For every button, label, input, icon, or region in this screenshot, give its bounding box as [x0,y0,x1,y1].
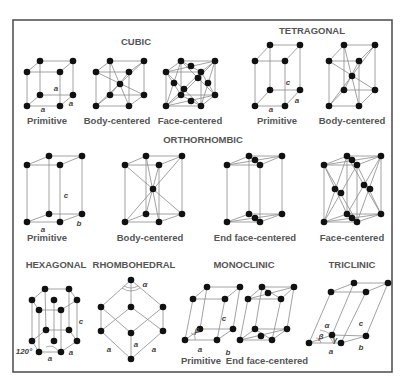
atom-icon [58,349,65,356]
atom-icon [178,58,185,65]
lattice-parameter-label: a [48,354,53,363]
atom-icon [141,58,148,65]
atom-icon [128,330,135,337]
lattice-caption: Body-centered [319,115,386,126]
lattice-parameter-label: a [69,99,74,108]
atom-icon [252,326,259,333]
atom-icon [143,153,150,160]
atom-icon [46,153,53,160]
atom-icon [279,211,286,218]
atom-icon [46,211,53,218]
atom-icon [128,356,135,363]
atom-icon [160,328,167,335]
atom-icon [297,87,304,94]
atom-icon [36,307,43,314]
atom-icon [198,69,205,76]
atom-icon [66,327,73,334]
atom-icon [252,58,259,65]
lattice-parameter-label: a [134,340,139,349]
atom-icon [178,92,185,99]
atom-icon [267,42,274,49]
atom-icon [141,92,148,99]
atom-icon [51,338,58,345]
atom-icon [126,69,133,76]
atom-icon [58,307,65,314]
atom-icon [252,215,259,222]
atom-icon [143,211,150,218]
heading-hexagonal: HEXAGONAL [26,259,87,270]
atom-icon [128,304,135,311]
atom-icon [195,75,202,82]
atom-icon [74,338,81,345]
atom-icon [278,296,285,303]
atom-icon [98,328,105,335]
atom-icon [349,73,356,80]
atom-icon [93,103,100,110]
atom-icon [205,80,212,87]
atom-icon [269,337,276,344]
atom-icon [57,219,64,226]
atom-icon [70,58,77,65]
lattice-parameter-label: b [77,219,82,228]
atom-icon [224,219,231,226]
atom-icon [252,103,259,110]
lattice-caption: Primitive [257,115,297,126]
atom-icon [24,162,31,169]
atom-icon [282,103,289,110]
atom-icon [306,340,313,347]
atom-icon [51,297,58,304]
atom-icon [98,304,105,311]
atom-icon [265,290,272,297]
atom-icon [179,153,186,160]
atom-icon [332,186,339,193]
lattice-parameter-label: β [194,326,200,335]
atom-icon [37,92,44,99]
atom-icon [171,80,178,87]
atom-icon [42,286,49,293]
atom-icon [222,296,229,303]
atom-icon [212,58,219,65]
atom-icon [57,162,64,169]
atom-icon [246,153,253,160]
atom-icon [326,58,333,65]
atom-icon [182,337,189,344]
atom-icon [122,162,129,169]
atom-icon [107,58,114,65]
atom-icon [214,337,221,344]
lattice-parameter-label: a [152,345,157,354]
atom-icon [37,58,44,65]
atom-icon [43,327,50,334]
atom-icon [257,162,264,169]
lattice-parameter-label: b [359,343,364,352]
atom-icon [363,333,370,340]
atom-icon [150,186,157,193]
atom-icon [160,304,167,311]
atom-icon [252,157,259,164]
atom-icon [341,87,348,94]
atom-icon [79,153,86,160]
atom-icon [204,284,211,291]
lattice-parameter-label: a [198,345,203,354]
atom-icon [378,153,385,160]
atom-icon [107,92,114,99]
atom-icon [24,219,31,226]
lattice-parameter-label: a [54,84,59,93]
atom-icon [188,98,195,105]
atom-icon [74,297,81,304]
atom-icon [321,219,328,226]
atom-icon [24,69,31,76]
atom-icon [188,63,195,70]
atom-icon [212,92,219,99]
lattice-caption: End face-centered [214,232,297,243]
atom-icon [57,103,64,110]
atom-icon [117,81,124,88]
atom-icon [338,340,345,347]
atom-icon [258,333,265,340]
lattice-caption: Face-centered [158,115,223,126]
atom-icon [237,337,244,344]
atom-icon [279,153,286,160]
atom-icon [321,162,328,169]
atom-icon [349,157,356,164]
atom-icon [24,103,31,110]
lattice-parameter-label: 120° [16,347,33,356]
